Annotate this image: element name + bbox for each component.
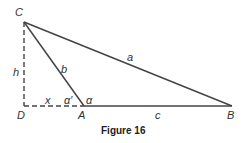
angle-label-alpha: α bbox=[86, 94, 93, 106]
angle-label-alpha-prime: α′ bbox=[64, 94, 73, 106]
vertex-label-a: A bbox=[77, 109, 85, 121]
vertex-label-d: D bbox=[17, 109, 25, 121]
side-label-x: x bbox=[44, 94, 51, 106]
side-label-h: h bbox=[13, 66, 19, 78]
side-label-a: a bbox=[127, 51, 133, 63]
side-label-c: c bbox=[155, 109, 161, 121]
side-label-b: b bbox=[61, 63, 67, 75]
side-a bbox=[24, 22, 232, 106]
triangle-diagram: C D A B h b a c x α′ α Figure 16 bbox=[0, 0, 246, 143]
vertex-label-b: B bbox=[227, 109, 234, 121]
figure-caption: Figure 16 bbox=[101, 125, 146, 136]
vertex-label-c: C bbox=[15, 6, 23, 18]
